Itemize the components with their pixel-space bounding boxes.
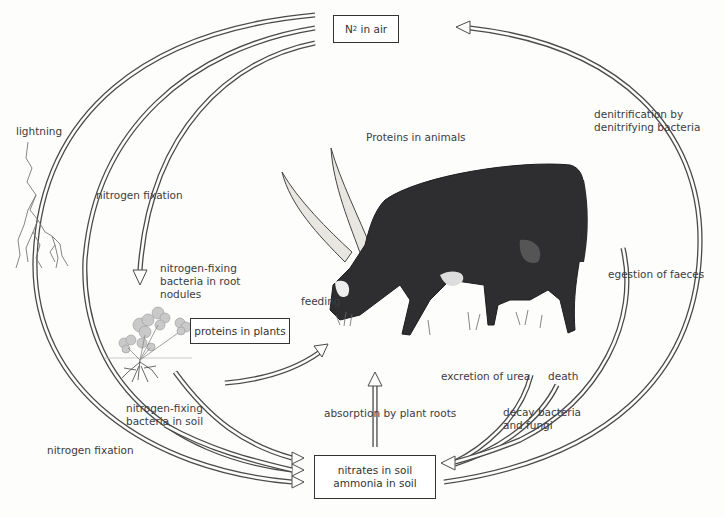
- label-root-nodules: nitrogen-fixing bacteria in root nodules: [160, 262, 240, 301]
- clover-plant-illustration: [105, 307, 192, 382]
- node-n2-in-air: N2 in air: [333, 15, 399, 43]
- ammonia-in-soil-text: ammonia in soil: [333, 477, 416, 490]
- n2-suffix: in air: [357, 23, 387, 36]
- label-root-nodules-line1: nitrogen-fixing: [160, 262, 240, 275]
- label-soil-bacteria-line1: nitrogen-fixing: [126, 402, 203, 415]
- label-soil-bacteria-line2: bacteria in soil: [126, 415, 203, 428]
- grass: [336, 310, 542, 335]
- label-decay-line2: and fungi: [503, 419, 581, 432]
- label-excretion: excretion of urea: [441, 370, 530, 383]
- label-denitrification: denitrification by denitrifying bacteria: [594, 108, 700, 134]
- arrows-layer: .a { fill:none; stroke:#4a4a4a; stroke-w…: [0, 0, 725, 517]
- label-root-nodules-line3: nodules: [160, 288, 240, 301]
- label-soil-bacteria: nitrogen-fixing bacteria in soil: [126, 402, 203, 428]
- label-absorption: absorption by plant roots: [324, 407, 456, 420]
- label-proteins-in-animals: Proteins in animals: [366, 131, 466, 144]
- label-egestion: egestion of faeces: [608, 268, 704, 281]
- label-decay-line1: decay bacteria: [503, 406, 581, 419]
- label-nitrogen-fixation-lower: nitrogen fixation: [47, 444, 134, 457]
- nitrates-in-soil-text: nitrates in soil: [338, 464, 412, 477]
- label-feeding: feeding: [301, 295, 341, 308]
- nitrogen-cycle-diagram: .a { fill:none; stroke:#4a4a4a; stroke-w…: [0, 0, 725, 517]
- label-decay: decay bacteria and fungi: [503, 406, 581, 432]
- label-death: death: [548, 370, 578, 383]
- node-proteins-in-plants: proteins in plants: [190, 318, 290, 344]
- proteins-in-plants-text: proteins in plants: [194, 325, 285, 338]
- label-lightning: lightning: [16, 125, 62, 138]
- label-denitrification-line1: denitrification by: [594, 108, 700, 121]
- arrow-feeding: [225, 344, 328, 383]
- n2-prefix: N: [345, 23, 353, 36]
- label-denitrification-line2: denitrifying bacteria: [594, 121, 700, 134]
- label-nitrogen-fixation-upper: nitrogen fixation: [96, 189, 183, 202]
- node-nitrates-ammonia-soil: nitrates in soil ammonia in soil: [314, 455, 436, 499]
- plant-roots: [122, 360, 158, 382]
- label-root-nodules-line2: bacteria in root: [160, 275, 240, 288]
- arrow-fixation-upper: [133, 43, 315, 285]
- arrow-soil-bacteria: [165, 425, 292, 470]
